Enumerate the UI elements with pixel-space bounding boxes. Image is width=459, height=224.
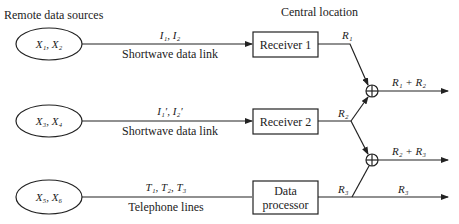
r3-up-branch	[352, 166, 369, 197]
summing-junction-2	[366, 154, 378, 166]
source-label-3: X₅, X₆	[35, 191, 63, 203]
link-bottom-label-2: Shortwave data link	[122, 124, 218, 138]
source-node-2: X₃, X₄	[16, 105, 82, 137]
remote-sources-heading: Remote data sources	[4, 8, 104, 22]
link-top-label-2: I₁′, I₂′	[156, 105, 183, 117]
link-top-label-3: T₁, T₂, T₃	[146, 181, 187, 193]
data-processor-block: Data processor	[253, 181, 318, 214]
source-node-3: X₅, X₆	[16, 180, 82, 214]
r2-up-branch	[351, 97, 368, 121]
sum-2-output-label: R₂ + R₃	[391, 145, 426, 157]
r2-label: R₂	[337, 107, 349, 119]
r1-label: R₁	[341, 29, 353, 41]
r2-down-branch	[351, 121, 368, 154]
sum-1-output-label: R₁ + R₂	[391, 76, 426, 88]
link-top-label-1: I₁, I₂	[159, 29, 181, 41]
source-node-1: X₁, X₂	[16, 28, 82, 60]
r3-label: R₃	[337, 183, 349, 195]
data-processor-label-line2: processor	[263, 198, 309, 212]
link-bottom-label-1: Shortwave data link	[122, 47, 218, 61]
summing-junction-1	[366, 85, 378, 97]
data-processor-label-line1: Data	[274, 184, 297, 198]
receiver-2-label: Receiver 2	[260, 115, 312, 129]
final-output-label: R₃	[397, 183, 409, 195]
source-label-1: X₁, X₂	[35, 38, 63, 50]
receiver-1-block: Receiver 1	[253, 32, 318, 57]
source-label-2: X₃, X₄	[35, 115, 63, 127]
r1-branch-line	[318, 44, 368, 85]
receiver-1-label: Receiver 1	[260, 38, 312, 52]
central-location-heading: Central location	[281, 5, 358, 19]
link-bottom-label-3: Telephone lines	[128, 200, 204, 214]
receiver-2-block: Receiver 2	[253, 109, 318, 134]
